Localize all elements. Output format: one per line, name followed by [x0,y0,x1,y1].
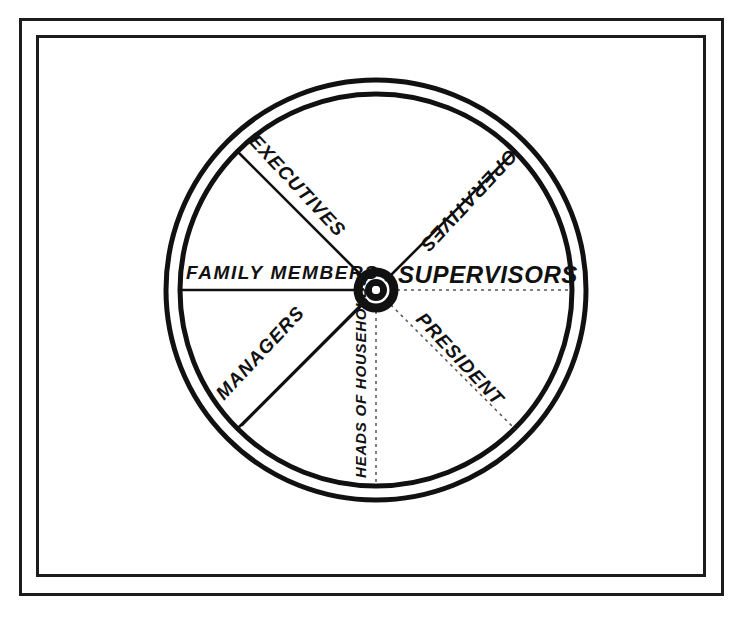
spoke-label-president: PRESIDENT [412,308,508,409]
spoke-label-heads-of-households: HEADS OF HOUSEHOLDS [352,275,369,478]
wheel-diagram: FAMILY MEMBERS SUPERVISORS EXECUTIVES OP… [0,0,748,617]
spoke-label-family-members: FAMILY MEMBERS [186,262,379,283]
page-canvas: FAMILY MEMBERS SUPERVISORS EXECUTIVES OP… [0,0,748,617]
spoke-label-executives: EXECUTIVES [245,130,350,240]
hub-center-dot [372,286,380,294]
spoke-label-operatives: OPERATIVES [416,145,521,256]
spoke-label-supervisors: SUPERVISORS [398,261,578,288]
spoke-label-managers: MANAGERS [212,302,309,404]
